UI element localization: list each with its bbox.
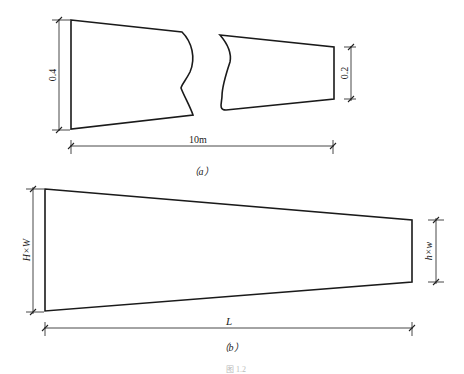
panel-a: 0.4 0.2 10m （a）: [47, 17, 356, 177]
panel-a-right-height-label: 0.2: [339, 67, 350, 80]
figure-caption: 图 1.2: [226, 365, 246, 374]
tapered-beam-diagram: 0.4 0.2 10m （a） H×W h×w: [0, 0, 464, 374]
panel-a-caption: （a）: [189, 166, 214, 177]
panel-b: H×W h×w L （b）: [21, 186, 444, 353]
panel-a-right-segment: [220, 35, 334, 110]
panel-a-length-label: 10m: [189, 134, 207, 145]
panel-b-left-section-label: H×W: [21, 237, 32, 262]
panel-b-right-section-label: h×w: [423, 241, 434, 260]
panel-b-tapered-member: [45, 189, 412, 311]
panel-a-left-height-label: 0.4: [47, 69, 58, 82]
panel-a-left-segment: [71, 20, 193, 129]
panel-b-caption: （b）: [219, 342, 244, 353]
panel-b-length-label: L: [225, 315, 232, 327]
